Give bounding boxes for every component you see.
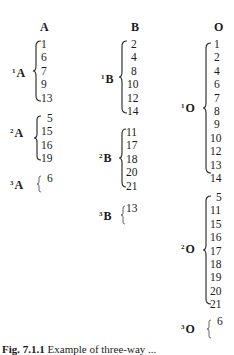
group-label-o1: 1O [181,101,195,116]
group-label-a1: 1A [12,66,25,81]
values-list: 5 11 15 16 17 18 19 20 21 [210,191,222,312]
values-list: 2 4 8 10 12 14 [127,38,139,118]
brace-icon [206,319,212,339]
values-list: 5 15 16 19 [41,112,53,166]
values-list: 6 [217,315,223,328]
values-list: 6 [47,172,53,185]
group-label-b1: 1B [101,72,114,87]
group-label-a2: 2A [10,126,23,141]
column-header-b: B [131,20,139,35]
values-list: 11 17 18 20 21 [126,126,138,193]
column-header-o: O [214,20,223,35]
group-label-b3: 3B [99,209,112,224]
figure-caption: Fig. 7.1.1 Example of three-way ... [2,343,156,355]
group-label-o3: 3O [181,322,195,337]
values-list: 13 [126,202,138,215]
brace-icon [36,175,42,193]
column-header-a: A [40,20,49,35]
values-list: 1 6 7 9 13 [41,38,53,105]
group-label-o2: 2O [181,242,195,257]
group-label-b2: 2B [99,151,112,166]
values-list: 1 2 4 6 7 8 9 10 12 13 14 [210,38,222,185]
group-label-a3: 3A [10,178,23,193]
